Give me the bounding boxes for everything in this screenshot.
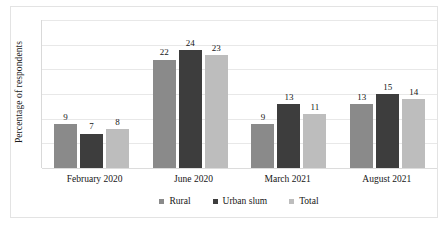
legend-item[interactable]: Rural bbox=[159, 196, 190, 206]
bar-slot: 8 bbox=[106, 20, 129, 168]
bar-value-label: 23 bbox=[212, 44, 221, 53]
bar[interactable] bbox=[80, 134, 103, 169]
legend-swatch-icon bbox=[159, 199, 164, 204]
bar[interactable] bbox=[402, 99, 425, 168]
x-axis-label: August 2021 bbox=[362, 174, 411, 184]
bar-groups: 97822242391311131514 bbox=[42, 20, 437, 168]
legend-label: Urban slum bbox=[223, 196, 268, 206]
legend-label: Rural bbox=[169, 196, 190, 206]
y-axis-title: Percentage of respondents bbox=[14, 40, 24, 142]
bar-slot: 13 bbox=[277, 20, 300, 168]
bar-value-label: 13 bbox=[284, 93, 293, 102]
y-axis-title-container: Percentage of respondents bbox=[9, 14, 29, 169]
bar-slot: 14 bbox=[402, 20, 425, 168]
bar[interactable] bbox=[205, 55, 228, 169]
x-axis-label: March 2021 bbox=[265, 174, 311, 184]
bar-slot: 24 bbox=[179, 20, 202, 168]
bar[interactable] bbox=[350, 104, 373, 168]
chart-figure: Percentage of respondents 97822242391311… bbox=[0, 0, 448, 227]
bar[interactable] bbox=[153, 60, 176, 169]
x-axis-label: February 2020 bbox=[67, 174, 123, 184]
bar[interactable] bbox=[54, 124, 77, 168]
bar-group: 222423 bbox=[153, 20, 228, 168]
x-axis-labels: February 2020June 2020March 2021August 2… bbox=[41, 171, 437, 187]
bar[interactable] bbox=[303, 114, 326, 168]
bar[interactable] bbox=[106, 129, 129, 169]
bar-slot: 15 bbox=[376, 20, 399, 168]
bar-slot: 7 bbox=[80, 20, 103, 168]
bar[interactable] bbox=[251, 124, 274, 168]
bar-group: 91311 bbox=[251, 20, 326, 168]
x-axis-label: June 2020 bbox=[174, 174, 213, 184]
bar-slot: 22 bbox=[153, 20, 176, 168]
legend-item[interactable]: Total bbox=[289, 196, 318, 206]
bar-slot: 23 bbox=[205, 20, 228, 168]
legend-item[interactable]: Urban slum bbox=[213, 196, 268, 206]
plot-area: 97822242391311131514 bbox=[41, 20, 437, 168]
bar-value-label: 7 bbox=[89, 122, 94, 131]
bar-value-label: 14 bbox=[409, 88, 418, 97]
bar-group: 978 bbox=[54, 20, 129, 168]
bar[interactable] bbox=[277, 104, 300, 168]
legend-label: Total bbox=[299, 196, 318, 206]
legend-swatch-icon bbox=[289, 199, 294, 204]
bar-value-label: 22 bbox=[160, 48, 169, 57]
bar-value-label: 9 bbox=[63, 113, 68, 122]
bar-value-label: 15 bbox=[383, 83, 392, 92]
chart-legend: RuralUrban slumTotal bbox=[41, 193, 437, 209]
bar-slot: 9 bbox=[251, 20, 274, 168]
bar-slot: 13 bbox=[350, 20, 373, 168]
bar-value-label: 8 bbox=[115, 118, 120, 127]
bar-value-label: 24 bbox=[186, 39, 195, 48]
bar-value-label: 13 bbox=[357, 93, 366, 102]
bar-slot: 9 bbox=[54, 20, 77, 168]
bar[interactable] bbox=[179, 50, 202, 168]
bar-value-label: 9 bbox=[261, 113, 266, 122]
bar[interactable] bbox=[376, 94, 399, 168]
bar-slot: 11 bbox=[303, 20, 326, 168]
bar-value-label: 11 bbox=[311, 103, 320, 112]
bar-group: 131514 bbox=[350, 20, 425, 168]
legend-swatch-icon bbox=[213, 199, 218, 204]
